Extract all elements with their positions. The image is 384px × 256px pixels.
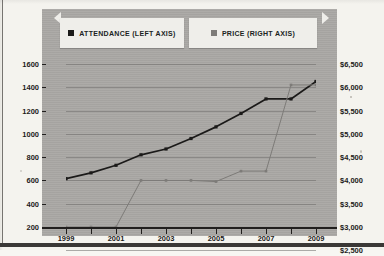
y-axis-left-tick-label: 200 xyxy=(26,223,39,232)
y-axis-left-tick xyxy=(42,87,46,88)
x-axis-tick-label: 2009 xyxy=(308,234,325,243)
attendance-line xyxy=(66,81,316,178)
attendance-data-point xyxy=(114,164,117,167)
price-data-point xyxy=(190,179,193,182)
y-axis-right-tick-label: $3,500 xyxy=(340,200,363,209)
y-axis-right-labels: $6,500$6,000$5,500$5,000$4,500$4,000$3,5… xyxy=(340,0,384,256)
price-data-point xyxy=(240,170,243,173)
x-axis-tick-label: 2003 xyxy=(158,234,175,243)
y-axis-left-tick-label: 400 xyxy=(26,200,39,209)
chart-legend: ATTENDANCE (LEFT AXIS) PRICE (RIGHT AXIS… xyxy=(60,18,322,48)
attendance-data-point xyxy=(214,125,217,128)
y-axis-left-labels: 1600140012001000800600400200 xyxy=(0,0,39,256)
x-axis-tick-label: 2001 xyxy=(108,234,125,243)
legend-marker-attendance-icon xyxy=(68,30,74,36)
attendance-data-point xyxy=(264,97,267,100)
y-axis-right-tick-label: $4,000 xyxy=(340,176,363,185)
y-axis-left-tick-label: 1000 xyxy=(22,130,39,139)
y-axis-right-tick-label: $6,000 xyxy=(340,83,363,92)
attendance-data-point xyxy=(164,147,167,150)
y-axis-left-tick-label: 1400 xyxy=(22,83,39,92)
legend-item-price[interactable]: PRICE (RIGHT AXIS) xyxy=(189,18,317,48)
attendance-data-point xyxy=(239,112,242,115)
chart-series-layer xyxy=(66,64,316,251)
y-axis-left-tick xyxy=(42,157,46,158)
attendance-data-point xyxy=(89,171,92,174)
y-axis-left-tick xyxy=(42,180,46,181)
attendance-data-point xyxy=(189,137,192,140)
price-data-point xyxy=(290,84,293,87)
y-axis-right-tick-label: $6,500 xyxy=(340,60,363,69)
y-axis-left-tick-label: 1200 xyxy=(22,107,39,116)
legend-marker-price-icon xyxy=(211,30,217,36)
y-axis-right-tick-label: $4,500 xyxy=(340,153,363,162)
y-axis-left-tick xyxy=(42,64,46,65)
x-axis-tick-label: 2007 xyxy=(258,234,275,243)
x-axis-tick-label: 2005 xyxy=(208,234,225,243)
price-data-point xyxy=(140,179,143,182)
y-axis-left-tick xyxy=(42,111,46,112)
price-data-point xyxy=(215,180,218,183)
x-axis-labels: 199920012003200520072009 xyxy=(0,234,384,248)
y-axis-left-tick xyxy=(42,204,46,205)
legend-item-attendance[interactable]: ATTENDANCE (LEFT AXIS) xyxy=(60,18,184,48)
y-axis-left-tick xyxy=(42,134,46,135)
price-data-point xyxy=(265,170,268,173)
y-axis-left-tick-label: 800 xyxy=(26,153,39,162)
legend-notch-right xyxy=(322,12,329,24)
plot-area xyxy=(66,64,316,227)
attendance-data-point xyxy=(289,97,292,100)
legend-label-price: PRICE (RIGHT AXIS) xyxy=(222,30,295,37)
price-data-point xyxy=(315,84,316,87)
y-axis-left-ticks xyxy=(42,64,46,227)
y-axis-right-tick-label: $5,500 xyxy=(340,107,363,116)
price-data-point xyxy=(165,179,168,182)
price-line xyxy=(66,85,316,227)
attendance-data-point xyxy=(66,177,68,180)
x-axis-tick-label: 1999 xyxy=(58,234,75,243)
y-axis-right-tick-label: $5,000 xyxy=(340,130,363,139)
attendance-data-point xyxy=(314,80,316,83)
legend-label-attendance: ATTENDANCE (LEFT AXIS) xyxy=(79,30,175,37)
y-axis-left-tick-label: 1600 xyxy=(22,60,39,69)
y-axis-left-tick-label: 600 xyxy=(26,176,39,185)
y-axis-right-tick-label: $3,000 xyxy=(340,223,363,232)
attendance-data-point xyxy=(139,153,142,156)
